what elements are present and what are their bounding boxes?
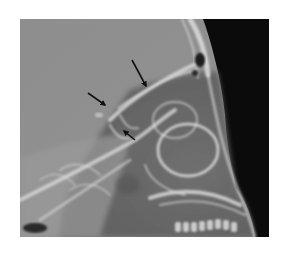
sinus-spot [192, 70, 198, 76]
xray-image [20, 19, 269, 237]
sphenoid-sinus [116, 175, 140, 195]
frontal-sinus [195, 53, 205, 67]
mastoid-dark [23, 223, 47, 233]
xray-figure: Lateral skull radiograph with three blac… [20, 19, 269, 237]
calcification [95, 113, 103, 118]
